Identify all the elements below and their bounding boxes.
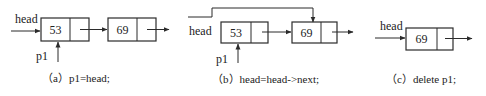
caption-c: （c）delete p1; <box>386 73 456 85</box>
head-label: head <box>380 19 403 33</box>
linked-list-deletion-diagram: head 53 69 p1 （a）p1=head; head 53 <box>0 0 486 96</box>
node-value: 69 <box>117 23 129 37</box>
node-value: 53 <box>50 23 62 37</box>
panel-c: head 69 （c）delete p1; <box>375 19 472 85</box>
node-box <box>292 22 337 43</box>
head-label: head <box>189 24 212 38</box>
node-value: 69 <box>301 26 313 40</box>
node-box <box>221 22 268 43</box>
caption-a: （a）p1=head; <box>42 72 110 84</box>
panel-a: head 53 69 p1 （a）p1=head; <box>11 12 169 84</box>
head-label: head <box>15 12 38 26</box>
node-value: 53 <box>230 26 242 40</box>
p1-label: p1 <box>216 52 228 66</box>
panel-b: head 53 69 p1 （b）head=head->next; <box>188 8 353 85</box>
node-value: 69 <box>416 32 428 46</box>
node-69: 69 <box>292 22 337 43</box>
node-53: 53 <box>221 22 268 43</box>
head-pointer-line <box>188 8 313 22</box>
caption-b: （b）head=head->next; <box>212 73 319 85</box>
p1-label: p1 <box>36 49 48 63</box>
